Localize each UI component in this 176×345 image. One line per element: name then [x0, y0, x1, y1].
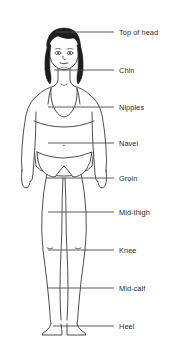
- callout-label-knee: Knee: [119, 246, 136, 255]
- callout-label-chin: Chin: [119, 66, 134, 75]
- callout-label-top-of-head: Top of head: [119, 28, 158, 37]
- callout-label-heel: Heel: [119, 322, 134, 331]
- callout-label-groin: Groin: [119, 174, 137, 183]
- callout-label-nipples: Nipples: [119, 103, 144, 112]
- callout-label-mid-calf: Mid-calf: [119, 284, 145, 293]
- body-landmark-diagram: Top of head Chin Nipples Navel Groin Mid…: [0, 0, 176, 345]
- callout-labels-layer: Top of head Chin Nipples Navel Groin Mid…: [0, 0, 176, 345]
- callout-label-navel: Navel: [119, 139, 138, 148]
- callout-label-mid-thigh: Mid-thigh: [119, 208, 150, 217]
